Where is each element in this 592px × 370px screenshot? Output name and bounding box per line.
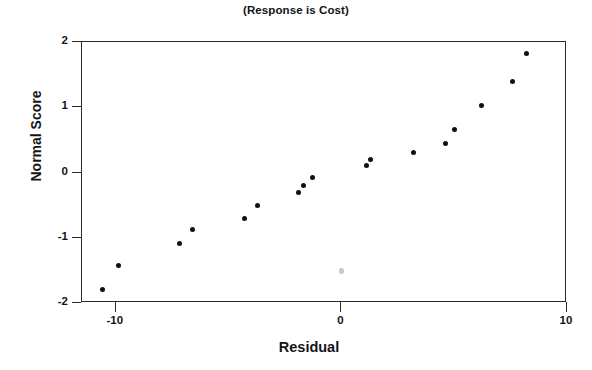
scatter-point <box>190 227 195 232</box>
y-axis-tick-mark <box>72 172 81 173</box>
normal-probability-plot-figure: (Response is Cost) Normal Score 210-1-2 … <box>0 0 592 370</box>
y-axis-tick-mark <box>72 302 81 303</box>
y-axis-tick-label: -2 <box>58 296 68 308</box>
y-axis-tick-mark <box>72 237 81 238</box>
scatter-point <box>310 175 315 180</box>
scatter-point <box>100 287 105 292</box>
scatter-point <box>177 241 182 246</box>
y-axis-tick-label: 0 <box>62 166 68 178</box>
y-axis-tick-label: 2 <box>62 35 68 47</box>
x-axis-tick-label: 0 <box>310 314 370 326</box>
scatter-point <box>296 190 301 195</box>
scatter-point <box>364 163 369 168</box>
y-axis-tick-mark <box>72 106 81 107</box>
scatter-point <box>524 51 529 56</box>
scatter-points-layer <box>82 42 565 301</box>
x-axis-tick-label: -10 <box>85 314 145 326</box>
scatter-point <box>255 203 260 208</box>
x-axis-tick-label: 10 <box>536 314 592 326</box>
y-axis-label: Normal Score <box>28 56 44 216</box>
x-axis-tick-mark <box>340 302 341 312</box>
scatter-point <box>301 183 306 188</box>
y-axis-tick-label: 1 <box>62 100 68 112</box>
scatter-point <box>116 263 121 268</box>
chart-title: (Response is Cost) <box>0 4 592 16</box>
scatter-point <box>452 127 457 132</box>
x-axis-tick-mark <box>115 302 116 312</box>
y-axis-tick-mark <box>72 41 81 42</box>
scatter-point <box>242 216 247 221</box>
scatter-point <box>411 150 416 155</box>
scatter-point <box>510 79 515 84</box>
x-axis-tick-mark <box>566 302 567 312</box>
x-axis-label: Residual <box>0 339 592 355</box>
scatter-point <box>443 141 448 146</box>
y-axis-tick-label: -1 <box>58 231 68 243</box>
plot-area <box>81 41 566 302</box>
scatter-point <box>368 157 373 162</box>
scatter-point <box>479 103 484 108</box>
scatter-point <box>339 268 344 274</box>
